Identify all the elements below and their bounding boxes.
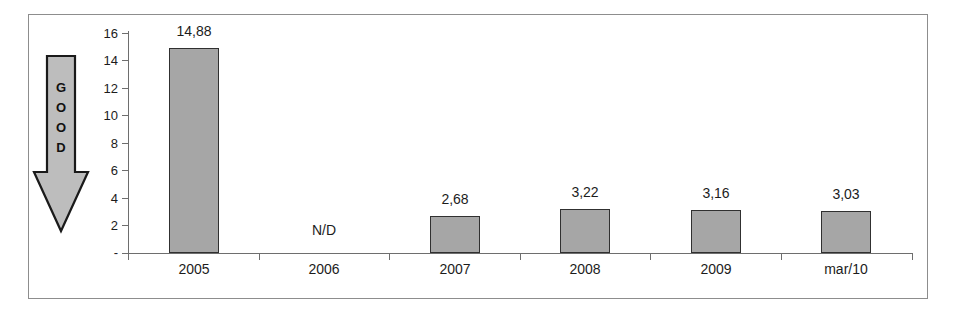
x-axis-tick <box>650 253 651 260</box>
x-axis-tick <box>389 253 390 260</box>
y-axis-tick <box>122 60 129 61</box>
bar-2009[interactable] <box>691 210 741 253</box>
good-letter-3: D <box>32 138 90 158</box>
x-axis-category-2007: 2007 <box>415 262 495 276</box>
bar-value-2007: 2,68 <box>415 192 495 206</box>
x-axis-category-2006: 2006 <box>284 262 364 276</box>
good-letter-0: G <box>32 78 90 98</box>
y-axis-label-10: 10 <box>84 109 118 122</box>
bar-2007[interactable] <box>430 216 480 253</box>
x-axis-tick <box>520 253 521 260</box>
x-axis-category-mar10: mar/10 <box>806 262 886 276</box>
good-letter-2: O <box>32 118 90 138</box>
bar-mar10[interactable] <box>821 211 871 253</box>
x-axis-category-2009: 2009 <box>676 262 756 276</box>
bar-2005[interactable] <box>169 48 219 253</box>
y-axis-label-8: 8 <box>84 137 118 150</box>
chart-container: G O O D 16 14 12 10 8 6 4 2 - 14,88 N/D … <box>0 0 954 325</box>
bar-value-2006-nd: N/D <box>284 223 364 237</box>
y-axis-label-12: 12 <box>84 82 118 95</box>
y-axis-label-14: 14 <box>84 54 118 67</box>
y-axis-tick <box>122 115 129 116</box>
x-axis-category-2005: 2005 <box>154 262 234 276</box>
x-axis-tick <box>912 253 913 260</box>
y-axis-label-4: 4 <box>84 192 118 205</box>
y-axis-tick <box>122 170 129 171</box>
y-axis-tick <box>122 143 129 144</box>
bar-2008[interactable] <box>560 209 610 253</box>
y-axis-tick <box>122 225 129 226</box>
x-axis-tick <box>128 253 129 260</box>
bar-value-2009: 3,16 <box>676 186 756 200</box>
chart-frame <box>28 14 928 299</box>
y-axis-label-0: - <box>84 246 118 259</box>
bar-value-mar10: 3,03 <box>806 187 886 201</box>
good-label: G O O D <box>32 78 90 158</box>
y-axis-tick <box>122 33 129 34</box>
x-axis-category-2008: 2008 <box>545 262 625 276</box>
y-axis-label-2: 2 <box>84 219 118 232</box>
y-axis-tick <box>122 198 129 199</box>
x-axis-tick <box>781 253 782 260</box>
y-axis-tick <box>122 88 129 89</box>
y-axis-label-6: 6 <box>84 164 118 177</box>
bar-value-2008: 3,22 <box>545 185 625 199</box>
good-letter-1: O <box>32 98 90 118</box>
bar-value-2005: 14,88 <box>154 24 234 38</box>
y-axis-label-16: 16 <box>84 27 118 40</box>
x-axis-tick <box>259 253 260 260</box>
x-axis-line <box>122 253 912 254</box>
